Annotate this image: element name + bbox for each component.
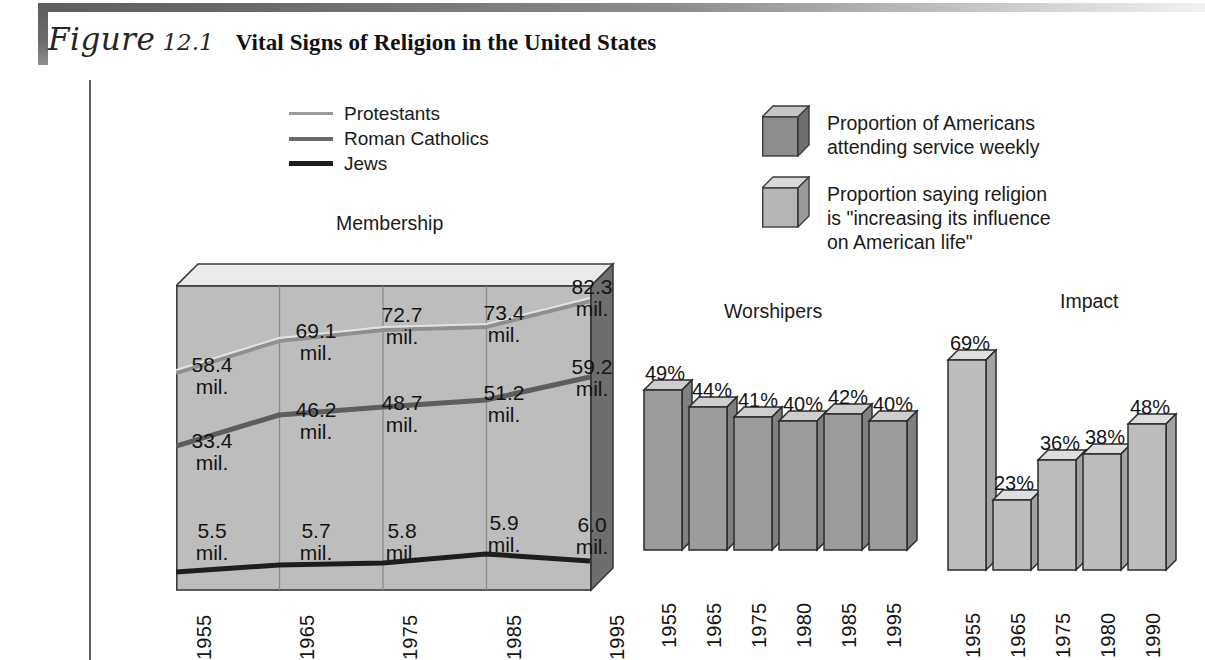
bar-value-label: 41% xyxy=(738,389,778,412)
legend-item-jews: Jews xyxy=(289,151,489,176)
value-label-jews: 5.5 mil. xyxy=(178,520,246,564)
value-unit: mil. xyxy=(386,413,419,436)
bar-1965 xyxy=(689,397,737,550)
x-tick-label: 1965 xyxy=(703,603,726,648)
cube-swatch-light-icon xyxy=(762,176,810,228)
legend-line: attending service weekly xyxy=(827,136,1039,158)
x-tick-label: 1985 xyxy=(503,615,526,660)
value-number: 46.2 xyxy=(296,398,337,421)
x-tick-label: 1955 xyxy=(193,615,216,660)
bar-value-label: 40% xyxy=(873,393,913,416)
value-unit: mil. xyxy=(488,403,521,426)
value-unit: mil. xyxy=(196,375,229,398)
chart-title-impact: Impact xyxy=(1060,290,1119,313)
bar-value-label: 40% xyxy=(783,393,823,416)
value-number: 48.7 xyxy=(382,391,423,414)
bar-value-label: 69% xyxy=(950,332,990,355)
legend-item-attending-service: Proportion of Americans attending servic… xyxy=(762,105,1051,159)
value-number: 33.4 xyxy=(192,429,233,452)
value-unit: mil. xyxy=(300,420,333,443)
x-tick-label: 1995 xyxy=(606,615,629,660)
legend-line: is "increasing its influence xyxy=(827,207,1051,229)
legend-item-roman-catholics: Roman Catholics xyxy=(289,126,489,151)
line-swatch-icon xyxy=(289,112,333,115)
legend-label: Roman Catholics xyxy=(344,129,489,148)
bar-1980 xyxy=(1083,444,1131,570)
bar-1985 xyxy=(824,404,872,550)
x-tick-label: 1995 xyxy=(883,603,906,648)
legend-line: Proportion saying religion xyxy=(827,183,1047,205)
x-tick-label: 1985 xyxy=(838,603,861,648)
value-number: 5.9 xyxy=(489,511,518,534)
bar-value-label: 23% xyxy=(994,472,1034,495)
value-label-protestants: 82.3 mil. xyxy=(558,276,626,320)
value-label-protestants: 72.7 mil. xyxy=(368,304,436,348)
value-unit: mil. xyxy=(576,535,609,558)
value-number: 6.0 xyxy=(577,513,606,536)
bar-value-label: 49% xyxy=(645,362,685,385)
bar-value-label: 36% xyxy=(1040,432,1080,455)
x-tick-label: 1955 xyxy=(658,603,681,648)
chart-title-membership: Membership xyxy=(336,212,443,235)
value-number: 5.7 xyxy=(301,519,330,542)
x-tick-label: 1975 xyxy=(1052,613,1075,658)
value-unit: mil. xyxy=(576,297,609,320)
value-number: 72.7 xyxy=(382,303,423,326)
figure-caption: Figure 12.1 Vital Signs of Religion in t… xyxy=(48,24,656,68)
x-tick-label: 1965 xyxy=(1007,613,1030,658)
value-label-catholics: 48.7 mil. xyxy=(368,392,436,436)
value-label-protestants: 69.1 mil. xyxy=(282,320,350,364)
bar-value-label: 38% xyxy=(1085,426,1125,449)
value-unit: mil. xyxy=(196,451,229,474)
figure-number: 12.1 xyxy=(162,29,213,55)
membership-chart: Membership 58.4 mil. 69.1 mil. 72.7 mil.… xyxy=(176,212,636,660)
value-label-catholics: 51.2 mil. xyxy=(470,382,538,426)
bar-1975 xyxy=(1038,450,1086,570)
page-vertical-rule xyxy=(89,80,91,660)
x-tick-label: 1980 xyxy=(793,603,816,648)
line-swatch-icon xyxy=(289,161,333,166)
value-unit: mil. xyxy=(196,541,229,564)
x-tick-label: 1965 xyxy=(296,615,319,660)
x-tick-label: 1980 xyxy=(1097,613,1120,658)
legend-text: Proportion saying religion is "increasin… xyxy=(827,176,1051,254)
legend-text: Proportion of Americans attending servic… xyxy=(827,105,1039,159)
x-tick-label: 1975 xyxy=(399,615,422,660)
value-number: 51.2 xyxy=(484,381,525,404)
value-unit: mil. xyxy=(300,341,333,364)
value-label-jews: 5.7 mil. xyxy=(282,520,350,564)
value-label-jews: 6.0 mil. xyxy=(558,514,626,558)
value-label-catholics: 46.2 mil. xyxy=(282,399,350,443)
value-label-jews: 5.9 mil. xyxy=(470,512,538,556)
cube-legend: Proportion of Americans attending servic… xyxy=(762,105,1051,271)
value-number: 5.5 xyxy=(197,519,226,542)
bar-1980 xyxy=(779,411,827,550)
bar-value-label: 42% xyxy=(828,386,868,409)
legend-line: on American life" xyxy=(827,231,973,253)
line-swatch-icon xyxy=(289,137,333,141)
page-border-top xyxy=(38,3,1205,12)
value-unit: mil. xyxy=(300,541,333,564)
value-number: 73.4 xyxy=(484,301,525,324)
value-unit: mil. xyxy=(576,377,609,400)
x-tick-label: 1990 xyxy=(1142,613,1165,658)
figure-word: Figure xyxy=(48,24,155,55)
impact-chart: Impact 69% xyxy=(930,290,1205,660)
value-label-catholics: 33.4 mil. xyxy=(178,430,246,474)
value-number: 58.4 xyxy=(192,353,233,376)
value-number: 5.8 xyxy=(387,519,416,542)
value-label-protestants: 73.4 mil. xyxy=(470,302,538,346)
cube-swatch-dark-icon xyxy=(762,105,810,157)
bar-1975 xyxy=(734,407,782,550)
value-label-catholics: 59.2 mil. xyxy=(558,356,626,400)
value-number: 59.2 xyxy=(572,355,613,378)
line-legend: Protestants Roman Catholics Jews xyxy=(289,101,489,176)
impact-bars xyxy=(930,320,1205,610)
x-tick-label: 1955 xyxy=(962,613,985,658)
value-unit: mil. xyxy=(386,541,419,564)
bar-1965 xyxy=(993,490,1041,570)
value-number: 69.1 xyxy=(296,319,337,342)
bar-1990 xyxy=(1128,414,1176,570)
legend-item-increasing-influence: Proportion saying religion is "increasin… xyxy=(762,176,1051,254)
value-unit: mil. xyxy=(488,533,521,556)
